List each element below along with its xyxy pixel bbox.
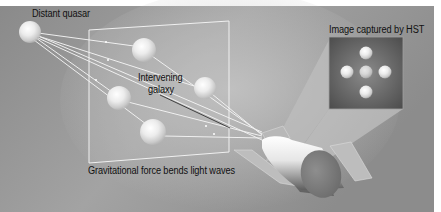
inset-sphere-bottom bbox=[360, 86, 373, 99]
lensing-caption: Gravitational force bends light waves bbox=[88, 165, 235, 176]
lensed-image-3 bbox=[107, 86, 131, 110]
quasar-label: Distant quasar bbox=[32, 8, 90, 19]
inset-sphere-top bbox=[360, 47, 373, 60]
inset-sphere-right bbox=[379, 66, 392, 79]
lensed-image-2 bbox=[194, 77, 216, 99]
distant-quasar-sphere bbox=[19, 21, 41, 43]
hst-image-label: Image captured by HST bbox=[329, 24, 424, 35]
inset-sphere-left bbox=[341, 66, 354, 79]
lensed-image-1 bbox=[132, 38, 156, 62]
lensed-image-4 bbox=[140, 119, 166, 145]
galaxy-label-line1: Intervening bbox=[138, 72, 183, 83]
inset-sphere-center bbox=[360, 66, 373, 79]
galaxy-label-line2: galaxy bbox=[148, 84, 174, 95]
